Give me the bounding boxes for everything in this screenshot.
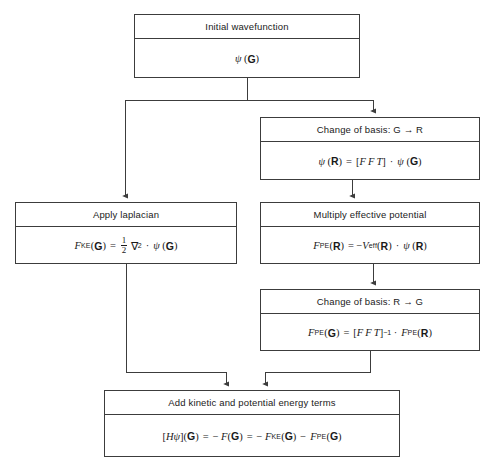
node-initial-wavefunction-title: Initial wavefunction [135, 15, 359, 39]
node-add-energy-terms: Add kinetic and potential energy terms [… [104, 390, 400, 457]
node-initial-wavefunction: Initial wavefunction ψ(G) [134, 14, 360, 78]
node-apply-laplacian-formula: FKE(G)=12∇2·ψ(G) [16, 227, 236, 264]
node-change-of-basis-g-to-r: Change of basis: G → R ψ(R)=[F F T]·ψ(G) [260, 117, 480, 180]
node-multiply-effective-potential-formula: FPE(R)=−Veff(R)·ψ(R) [261, 227, 479, 264]
node-add-energy-terms-formula: [Hψ](G)=−F(G)=−FKE(G)−FPE(G) [105, 415, 399, 457]
node-add-energy-terms-title: Add kinetic and potential energy terms [105, 391, 399, 415]
connector-laplacian-to-add [126, 264, 226, 384]
node-multiply-effective-potential-title: Multiply effective potential [261, 203, 479, 227]
connector-basis-rg-to-add [265, 351, 370, 384]
node-change-of-basis-r-to-g-title: Change of basis: R → G [261, 290, 479, 314]
flowchart-diagram: Initial wavefunction ψ(G) Change of basi… [0, 0, 496, 469]
node-apply-laplacian-title: Apply laplacian [16, 203, 236, 227]
node-initial-wavefunction-formula: ψ(G) [135, 39, 359, 78]
node-change-of-basis-g-to-r-title: Change of basis: G → R [261, 118, 479, 142]
node-change-of-basis-g-to-r-formula: ψ(R)=[F F T]·ψ(G) [261, 142, 479, 180]
node-change-of-basis-r-to-g: Change of basis: R → G FPE(G)=[F F T]−1·… [260, 289, 480, 351]
node-change-of-basis-r-to-g-formula: FPE(G)=[F F T]−1·FPE(R) [261, 314, 479, 351]
node-multiply-effective-potential: Multiply effective potential FPE(R)=−Vef… [260, 202, 480, 264]
node-apply-laplacian: Apply laplacian FKE(G)=12∇2·ψ(G) [15, 202, 237, 264]
